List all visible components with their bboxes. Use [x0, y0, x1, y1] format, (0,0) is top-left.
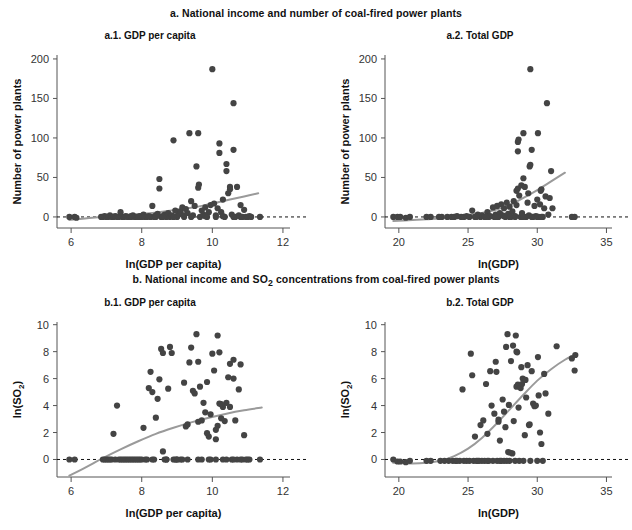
- data-point: [544, 100, 550, 106]
- data-point: [227, 404, 233, 410]
- data-point: [220, 213, 226, 219]
- data-point: [501, 213, 507, 219]
- data-point: [513, 332, 519, 338]
- y-tick-label: 50: [37, 171, 49, 183]
- x-tick-label: 10: [206, 485, 218, 497]
- y-tick-label: 0: [371, 211, 377, 223]
- data-point: [493, 369, 499, 375]
- data-point: [484, 458, 490, 464]
- x-tick-label: 12: [277, 485, 289, 497]
- data-point: [144, 456, 150, 462]
- data-point: [513, 202, 519, 208]
- data-point: [195, 130, 201, 136]
- y-axis-label-pre: ln(SO: [11, 388, 23, 418]
- data-point: [160, 350, 166, 356]
- data-point: [114, 402, 120, 408]
- data-point: [572, 352, 578, 358]
- data-point: [185, 421, 191, 427]
- data-point: [514, 349, 520, 355]
- y-tick-label: 100: [31, 132, 49, 144]
- data-point: [520, 130, 526, 136]
- data-point: [469, 208, 475, 214]
- data-point: [192, 390, 198, 396]
- data-point: [237, 214, 243, 220]
- data-point: [536, 392, 542, 398]
- data-point: [487, 368, 493, 374]
- y-tick-label: 100: [359, 132, 377, 144]
- data-point: [236, 386, 242, 392]
- data-point: [527, 421, 533, 427]
- data-point: [515, 404, 521, 410]
- data-point: [493, 359, 499, 365]
- data-point: [541, 205, 547, 211]
- data-point: [542, 390, 548, 396]
- section-a-title: a. National income and number of coal-fi…: [0, 7, 632, 19]
- data-point: [537, 429, 543, 435]
- data-point: [529, 214, 535, 220]
- data-point: [179, 456, 185, 462]
- data-point: [204, 379, 210, 385]
- x-tick-label: 25: [462, 485, 474, 497]
- data-point: [504, 331, 510, 337]
- y-tick-label: 2: [371, 427, 377, 439]
- fit-curve: [393, 354, 576, 463]
- x-axis-label: ln(GDP per capita): [126, 258, 222, 270]
- data-point: [534, 458, 540, 464]
- data-point: [207, 411, 213, 417]
- x-tick-label: 30: [531, 236, 543, 248]
- data-point: [186, 130, 192, 136]
- data-point: [524, 362, 530, 368]
- data-point: [153, 214, 159, 220]
- data-point: [234, 184, 240, 190]
- data-point: [169, 350, 175, 356]
- y-axis-label-post: ): [11, 380, 23, 384]
- data-point: [160, 448, 166, 454]
- data-point: [527, 458, 533, 464]
- data-point: [522, 184, 528, 190]
- data-point: [165, 386, 171, 392]
- x-tick-label: 8: [139, 485, 145, 497]
- data-point: [548, 168, 554, 174]
- data-point: [500, 396, 506, 402]
- x-tick-label: 6: [68, 236, 74, 248]
- data-point: [185, 456, 191, 462]
- y-axis-label: ln(SO2): [339, 380, 354, 418]
- y-tick-label: 150: [359, 92, 377, 104]
- data-point: [147, 369, 153, 375]
- data-point: [540, 458, 546, 464]
- data-point: [156, 185, 162, 191]
- data-point: [223, 456, 229, 462]
- data-point: [218, 401, 224, 407]
- data-point: [407, 458, 413, 464]
- data-point: [428, 214, 434, 220]
- data-point: [538, 214, 544, 220]
- data-point: [213, 214, 219, 220]
- scatter-plot-b2: 024681020253035ln(GDP)ln(SO2): [320, 307, 632, 530]
- data-point: [213, 427, 219, 433]
- data-point: [149, 389, 155, 395]
- data-point: [397, 214, 403, 220]
- data-point: [156, 376, 162, 382]
- y-tick-label: 8: [43, 346, 49, 358]
- data-point: [493, 214, 499, 220]
- data-point: [257, 456, 263, 462]
- data-point: [545, 411, 551, 417]
- data-point: [66, 456, 72, 462]
- data-point: [495, 417, 501, 423]
- data-point: [206, 456, 212, 462]
- y-tick-label: 8: [371, 346, 377, 358]
- data-point: [156, 176, 162, 182]
- y-axis-label: ln(SO2): [11, 380, 26, 418]
- y-axis-label: Number of power plants: [339, 79, 351, 205]
- data-point: [225, 374, 231, 380]
- data-point: [149, 203, 155, 209]
- data-point: [472, 433, 478, 439]
- data-point: [529, 147, 535, 153]
- x-axis-label: ln(GDP): [478, 507, 519, 519]
- panel-b1: 0246810681012ln(GDP per capita)ln(SO2): [0, 307, 312, 530]
- data-point: [488, 402, 494, 408]
- data-point: [216, 349, 222, 355]
- data-point: [202, 213, 208, 219]
- data-point: [503, 344, 509, 350]
- data-point: [535, 130, 541, 136]
